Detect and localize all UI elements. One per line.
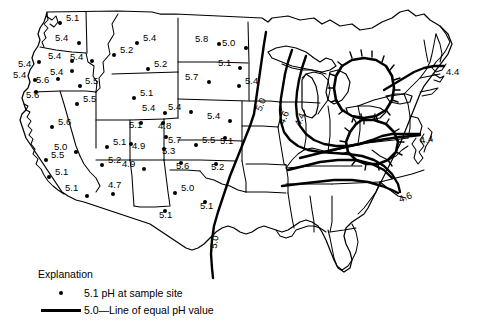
- isopleth-label-4-4-northeast: 4.4: [446, 66, 459, 77]
- sample-site-value-label: 5.6: [26, 90, 39, 100]
- state-line-ms-al: [310, 196, 314, 232]
- isopleth-4-4-hachured-loop-outer: [334, 58, 394, 118]
- state-line-pa-ny: [358, 94, 404, 106]
- sample-site-dot: [70, 69, 74, 73]
- sample-site-dot: [47, 175, 51, 179]
- sample-site-dot: [228, 119, 232, 123]
- sample-site-value-label: 5.4: [48, 51, 61, 61]
- sample-site-dot: [105, 145, 109, 149]
- sample-site-value-label: 5.1: [218, 58, 231, 68]
- sample-site-dot: [207, 80, 211, 84]
- sample-site-dot: [238, 66, 242, 70]
- sample-site-value-label: 5.5: [51, 150, 64, 160]
- sample-site-dot: [37, 60, 41, 64]
- sample-site-dot: [237, 84, 241, 88]
- isopleth-label-5-0-texas: 5.0: [208, 235, 221, 250]
- sample-site-value-label: 5.4: [207, 111, 220, 121]
- state-line-al-ga: [330, 196, 332, 232]
- sample-site-value-label: 5.1: [129, 120, 142, 130]
- legend-title: Explanation: [38, 268, 214, 280]
- sample-site-dot: [189, 110, 193, 114]
- sample-site-dot: [163, 111, 167, 115]
- state-line-mo-ar: [246, 164, 286, 165]
- legend-sample-site-label: 5.1 pH at sample site: [84, 287, 183, 299]
- state-line-nh-me: [436, 34, 442, 62]
- sample-site-value-label: 5.5: [202, 135, 215, 145]
- sample-site-value-label: 5.2: [108, 155, 121, 165]
- state-line-oh-pa-wv: [358, 106, 360, 144]
- sample-site-dot: [111, 192, 115, 196]
- sample-site-value-label: 5.5: [85, 76, 98, 86]
- legend-row-isopleth: 5.0—Line of equal pH value: [38, 304, 214, 316]
- sample-site-value-label: 5.1: [65, 183, 78, 193]
- sample-site-dot: [132, 96, 136, 100]
- state-line-wi-il: [280, 102, 320, 103]
- sample-site-value-label: 5.4: [245, 76, 258, 86]
- sample-site-value-label: 5.1: [66, 13, 79, 23]
- state-line-ca-az: [80, 156, 100, 192]
- state-line-wa-id: [86, 12, 87, 53]
- sample-site-dot: [90, 59, 94, 63]
- state-line-nd-sd: [178, 62, 248, 63]
- state-line-vt-nh: [424, 40, 428, 62]
- sample-site-value-label: 5.4: [143, 33, 156, 43]
- sample-site-value-label: 5.1: [159, 210, 172, 220]
- legend-row-sample-site: 5.1 pH at sample site: [38, 287, 214, 299]
- sample-site-value-label: 5.7: [185, 72, 198, 82]
- washington-coast-inlet: [46, 16, 58, 27]
- sample-site-dot: [100, 163, 104, 167]
- sample-site-dot: [244, 46, 248, 50]
- state-line-la-ms: [288, 193, 294, 228]
- sample-site-dot: [44, 158, 48, 162]
- sample-site-value-label: 5.4: [70, 52, 83, 62]
- sample-site-dot: [217, 42, 221, 46]
- isopleth-line-icon: [38, 309, 84, 312]
- state-line-nj: [410, 116, 422, 134]
- sample-site-value-label: 5.4: [142, 103, 155, 113]
- sample-site-value-label: 5.1: [113, 137, 126, 147]
- sample-site-dot: [75, 102, 79, 106]
- isopleth-label-4-4-midatlantic: 4.4: [419, 133, 434, 146]
- sample-site-value-label: 4.8: [158, 121, 171, 131]
- legend-isopleth-label: 5.0—Line of equal pH value: [84, 304, 214, 316]
- sample-site-value-label: 5.4: [168, 102, 181, 112]
- sample-site-value-label: 5.2: [120, 45, 133, 55]
- sample-site-value-label: 4.7: [108, 180, 121, 190]
- ph-contour-map-figure: 5.15.45.45.45.45.45.65.65.45.55.45.25.25…: [0, 0, 481, 330]
- sample-site-dot: [142, 167, 146, 171]
- state-line-sd-ne: [178, 99, 248, 101]
- sample-site-dot: [56, 77, 60, 81]
- state-line-nm-tx: [134, 160, 170, 207]
- sample-site-value-label: 5.6: [176, 161, 189, 171]
- sample-site-dot: [58, 21, 62, 25]
- sample-site-value-label: 5.2: [211, 162, 224, 172]
- sample-site-dot: [112, 53, 116, 57]
- sample-site-dot: [74, 150, 78, 154]
- sample-site-value-label: 4.9: [122, 159, 135, 169]
- sample-site-value-label: 5.2: [154, 59, 167, 69]
- state-line-or-ca-nv: [34, 91, 96, 92]
- sample-site-value-label: 5.1: [220, 136, 233, 146]
- sample-site-value-label: 5.0: [222, 38, 235, 48]
- sample-site-value-label: 5.1: [55, 167, 68, 177]
- sample-site-value-label: 5.4: [50, 67, 63, 77]
- state-line-mt-wy: [112, 72, 178, 74]
- sample-site-value-label: 5.5: [83, 94, 96, 104]
- sample-site-value-label: 5.4: [55, 33, 68, 43]
- sample-site-dot: [135, 41, 139, 45]
- sample-site-value-label: 5.0: [181, 183, 194, 193]
- sample-site-dot: [146, 67, 150, 71]
- sample-site-value-label: 5.4: [13, 70, 26, 80]
- sample-site-dot: [85, 194, 89, 198]
- sample-site-value-label: 5.8: [195, 34, 208, 44]
- sample-site-dot: [77, 41, 81, 45]
- sample-site-value-label: 5.7: [168, 135, 181, 145]
- sample-site-value-label: 5.3: [162, 146, 175, 156]
- sample-site-dot: [173, 191, 177, 195]
- state-line-ok-east: [242, 161, 246, 192]
- state-line-mn-east: [248, 22, 249, 101]
- state-line-ar-la: [246, 192, 286, 193]
- sample-site-value-label: 5.6: [58, 117, 71, 127]
- sample-site-dot-icon: [38, 291, 84, 295]
- sample-site-value-label: 5.4: [18, 59, 31, 69]
